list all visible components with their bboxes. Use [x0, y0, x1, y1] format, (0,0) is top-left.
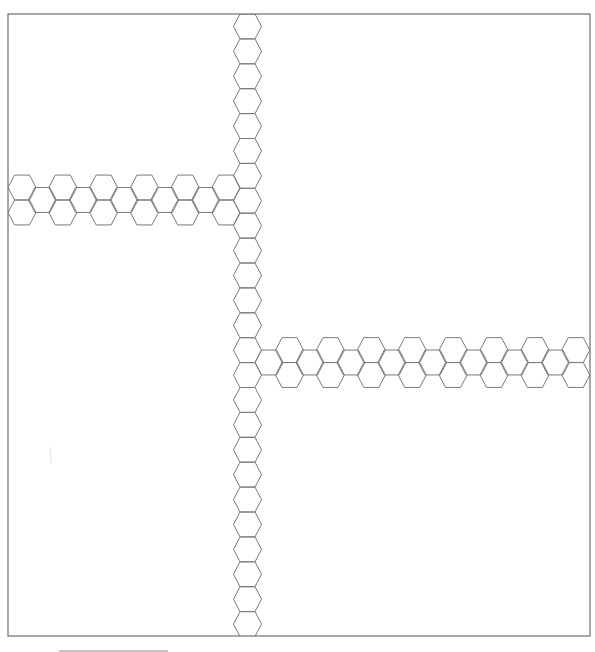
vertical-strip-hex — [234, 562, 262, 587]
vertical-strip-hex — [234, 612, 262, 637]
right-horizontal-strip-hex — [357, 338, 385, 363]
vertical-strip-hex — [234, 114, 262, 139]
right-horizontal-strip-hex — [398, 363, 426, 388]
right-horizontal-strip-link-hex — [460, 350, 488, 375]
right-horizontal-strip-hex — [562, 338, 590, 363]
right-horizontal-strip-hex — [316, 338, 344, 363]
vertical-strip-hex — [234, 263, 262, 288]
right-horizontal-strip-link-hex — [337, 350, 365, 375]
right-horizontal-strip-hex — [276, 338, 304, 363]
right-horizontal-strip-link-hex — [419, 350, 447, 375]
left-horizontal-strip-link-hex — [151, 188, 179, 213]
vertical-strip-hex — [234, 39, 262, 64]
left-horizontal-strip-hex — [130, 175, 158, 200]
left-horizontal-strip-link-hex — [110, 188, 138, 213]
vertical-strip-hex — [234, 388, 262, 413]
faint-mark — [50, 447, 51, 463]
diagram-frame — [8, 14, 590, 636]
right-horizontal-strip-hex — [480, 363, 508, 388]
vertical-strip-hex — [234, 14, 262, 39]
vertical-strip-hex — [234, 537, 262, 562]
vertical-strip-hex — [234, 139, 262, 164]
left-horizontal-strip-link-hex — [192, 188, 220, 213]
left-horizontal-strip-hex — [212, 200, 240, 225]
right-horizontal-strip-hex — [480, 338, 508, 363]
left-horizontal-strip-hex — [49, 175, 77, 200]
left-horizontal-strip-hex — [49, 200, 77, 225]
right-horizontal-strip-link-hex — [296, 350, 324, 375]
right-horizontal-strip-hex — [439, 338, 467, 363]
left-horizontal-strip-hex — [171, 200, 199, 225]
vertical-strip-hex — [234, 512, 262, 537]
vertical-strip-hex — [234, 587, 262, 612]
vertical-strip-hex — [234, 437, 262, 462]
left-horizontal-strip-hex — [212, 175, 240, 200]
right-horizontal-strip-hex — [439, 363, 467, 388]
right-horizontal-strip-link-hex — [500, 350, 528, 375]
left-horizontal-strip-hex — [90, 175, 118, 200]
left-horizontal-strip-hex — [130, 200, 158, 225]
vertical-strip-hex — [234, 313, 262, 338]
vertical-strip-hex — [234, 412, 262, 437]
vertical-strip-hex — [234, 462, 262, 487]
vertical-strip-hex — [234, 89, 262, 114]
vertical-strip-hex — [234, 238, 262, 263]
left-horizontal-strip-hex — [8, 175, 36, 200]
right-horizontal-strip-link-hex — [255, 350, 283, 375]
vertical-strip-hex — [234, 163, 262, 188]
hexagon-strip-diagram — [0, 0, 595, 652]
right-horizontal-strip-hex — [562, 363, 590, 388]
vertical-strip-hex — [234, 487, 262, 512]
left-horizontal-strip-hex — [171, 175, 199, 200]
right-horizontal-strip-hex — [357, 363, 385, 388]
right-horizontal-strip-hex — [521, 338, 549, 363]
hexagon-grid — [8, 14, 590, 637]
right-horizontal-strip-hex — [398, 338, 426, 363]
left-horizontal-strip-hex — [8, 200, 36, 225]
vertical-strip-hex — [234, 64, 262, 89]
right-horizontal-strip-hex — [316, 363, 344, 388]
right-horizontal-strip-link-hex — [541, 350, 569, 375]
right-horizontal-strip-hex — [521, 363, 549, 388]
left-horizontal-strip-link-hex — [28, 188, 56, 213]
left-horizontal-strip-hex — [90, 200, 118, 225]
right-horizontal-strip-link-hex — [378, 350, 406, 375]
vertical-strip-hex — [234, 288, 262, 313]
right-horizontal-strip-hex — [276, 363, 304, 388]
left-horizontal-strip-link-hex — [69, 188, 97, 213]
